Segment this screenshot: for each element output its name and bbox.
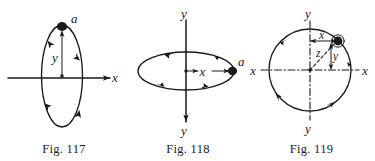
figure-119-caption: Fig. 119 [248, 142, 375, 157]
particle-a-label: a [238, 54, 245, 69]
orbit-arrowhead-upper-right [73, 53, 80, 61]
figure-119-diagram: x x y y z x y [248, 0, 375, 140]
y-axis-bottom-label: y [179, 123, 187, 138]
x-abscissa-label: x [318, 29, 325, 41]
origin-dot [60, 74, 63, 77]
figure-117-diagram: a y x [0, 0, 128, 140]
y-axis-top-label: y [303, 6, 311, 21]
x-axis-label: x [111, 70, 118, 85]
figure-117: a y x Fig. 117 [0, 0, 128, 161]
y-axis-top-label: y [179, 6, 187, 21]
y-axis-bottom-label: y [303, 121, 311, 136]
figure-118-diagram: x a y y [128, 0, 248, 140]
figure-117-caption: Fig. 117 [0, 142, 128, 157]
radius-z-label: z [315, 47, 321, 59]
x-axis-left-label: x [249, 63, 256, 78]
particle-a-label: a [71, 11, 78, 26]
figure-118: x a y y Fig. 118 [128, 0, 248, 161]
figure-118-caption: Fig. 118 [128, 142, 248, 157]
y-ordinate-label: y [50, 50, 58, 65]
particle-a-marker [57, 22, 67, 31]
x-axis-right-label: x [361, 63, 368, 78]
x-abscissa-label: x [199, 64, 206, 79]
y-ordinate-label: y [332, 50, 339, 63]
figure-119: x x y y z x y [248, 0, 375, 161]
figure-plate: a y x Fig. 117 [0, 0, 375, 161]
particle-a-marker [228, 67, 237, 75]
orbit-arrowhead-upper-left [48, 41, 55, 49]
